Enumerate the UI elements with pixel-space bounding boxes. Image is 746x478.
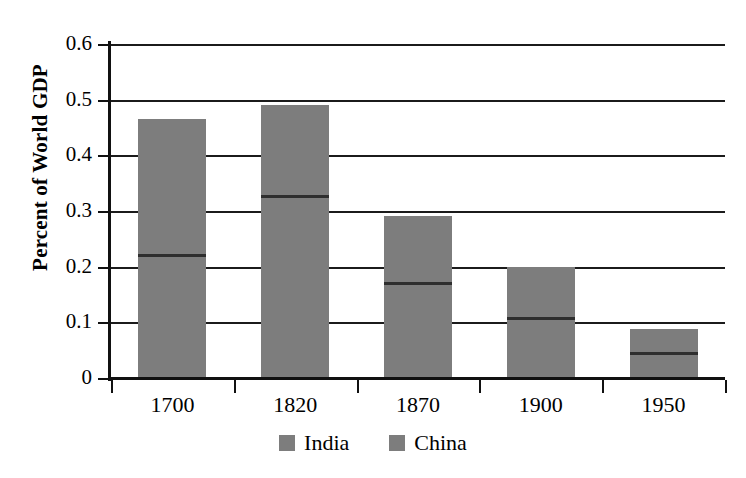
y-axis-tick [98,211,111,213]
y-axis-tick-label: 0.6 [32,33,92,54]
plot-area [111,44,725,378]
x-axis-tick-label: 1820 [235,392,355,418]
chart-legend: IndiaChina [0,432,746,454]
gridline [111,100,725,102]
chart-container: Percent of World GDP 0.60.50.40.30.20.10… [0,0,746,478]
legend-label: China [414,432,467,454]
legend-swatch-icon [389,435,405,451]
y-axis-tick [98,155,111,157]
x-axis-tick [725,380,727,393]
bar-segment-divider [384,282,452,285]
y-axis-tick [98,100,111,102]
y-axis-tick-label: 0.3 [32,200,92,221]
x-axis-tick-label: 1700 [112,392,232,418]
bar-segment-divider [261,195,329,198]
legend-item-china[interactable]: China [389,432,467,454]
x-axis-tick-label: 1950 [604,392,724,418]
y-axis-tick-label: 0.4 [32,144,92,165]
y-axis-tick [98,267,111,269]
bar-1700 [138,119,206,378]
bar-1820 [261,105,329,378]
x-axis-tick-label: 1900 [481,392,601,418]
y-axis-tick-label: 0.2 [32,256,92,277]
y-axis-tick [98,44,111,46]
x-axis-tick-label: 1870 [358,392,478,418]
legend-label: India [304,432,349,454]
y-axis-tick-label: 0.5 [32,89,92,110]
bar-1870 [384,216,452,378]
legend-item-india[interactable]: India [279,432,349,454]
bar-segment-divider [630,352,698,355]
bar-1900 [507,267,575,378]
y-axis-tick [98,378,111,380]
y-axis-tick-label: 0 [32,367,92,388]
y-axis-tick-labels: 0.60.50.40.30.20.10 [24,0,92,478]
y-axis-tick-label: 0.1 [32,311,92,332]
bar-segment-divider [138,254,206,257]
legend-swatch-icon [279,435,295,451]
bar-1950 [630,329,698,378]
bar-segment-divider [507,317,575,320]
x-axis-line [108,377,725,380]
gridline [111,44,725,46]
y-axis-tick [98,322,111,324]
